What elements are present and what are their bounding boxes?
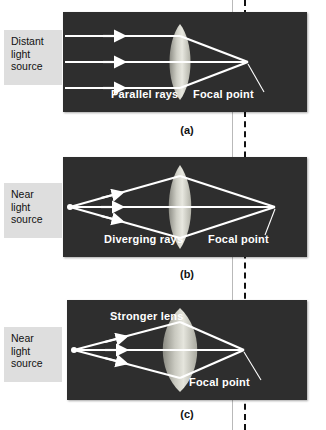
panel-c: Stronger lens Focal point xyxy=(67,300,307,400)
panel-a-focal-label: Focal point xyxy=(193,88,254,100)
panel-a-source-label: Distant light source xyxy=(4,30,62,85)
panel-a-rays-label: Parallel rays xyxy=(111,88,178,100)
panel-c-focal-label: Focal point xyxy=(189,376,250,388)
panel-b-caption: (b) xyxy=(167,268,207,280)
panel-c-caption: (c) xyxy=(167,408,207,420)
panel-b-rays-label: Diverging rays xyxy=(104,233,183,245)
lens-focusing-figure: Parallel rays Focal point Distant light … xyxy=(0,0,326,430)
panel-a: Parallel rays Focal point xyxy=(63,12,307,112)
panel-c-optics xyxy=(67,300,307,400)
panel-b: Diverging rays Focal point xyxy=(63,157,307,257)
focal-point-leader-b xyxy=(265,209,275,235)
panel-b-focal-label: Focal point xyxy=(208,233,269,245)
panel-b-optics xyxy=(63,157,307,257)
panel-b-source-label: Near light source xyxy=(4,183,62,238)
panel-c-lens-label: Stronger lens xyxy=(110,310,184,322)
panel-a-optics xyxy=(63,12,307,112)
panel-c-source-label: Near light source xyxy=(4,327,62,382)
panel-a-caption: (a) xyxy=(167,124,207,136)
